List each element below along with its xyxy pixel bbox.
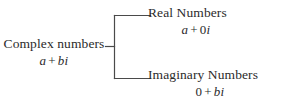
node-complex-numbers: Complex numbers a+bi (2, 36, 106, 68)
node-imaginary-numbers-expression: 0+bi (148, 84, 272, 99)
node-real-numbers: Real Numbers a+0i (148, 5, 248, 37)
node-complex-numbers-expression: a+bi (2, 53, 106, 68)
term-i: i (221, 84, 225, 99)
node-real-numbers-expression: a+0i (148, 22, 244, 37)
term-i: i (207, 22, 211, 37)
complex-numbers-diagram: Complex numbers a+bi Real Numbers a+0i I… (0, 0, 299, 109)
term-plus: + (46, 53, 58, 68)
term-b: b (214, 84, 221, 99)
term-plus: + (202, 84, 214, 99)
term-b: b (58, 53, 65, 68)
node-real-numbers-title: Real Numbers (148, 5, 248, 21)
node-complex-numbers-title: Complex numbers (2, 36, 106, 52)
node-imaginary-numbers-title: Imaginary Numbers (148, 67, 284, 83)
term-plus: + (188, 22, 200, 37)
node-imaginary-numbers: Imaginary Numbers 0+bi (148, 67, 284, 99)
term-zero: 0 (200, 22, 207, 37)
term-i: i (65, 53, 69, 68)
